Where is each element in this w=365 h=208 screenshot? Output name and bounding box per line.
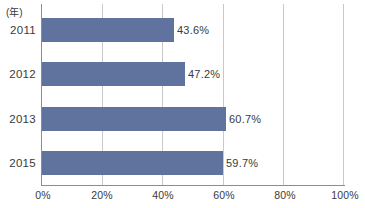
x-axis-tick-label-100: 100%	[331, 189, 359, 201]
y-axis-tick-label-2013: 2013	[9, 113, 36, 125]
y-axis-tick-label-2011: 2011	[10, 24, 36, 36]
data-label-2013: 60.7%	[229, 113, 261, 125]
gridline-100	[343, 4, 344, 185]
gridline-80	[283, 4, 284, 185]
x-axis-tick-label-0: 0%	[35, 189, 51, 201]
data-label-2012: 47.2%	[188, 68, 220, 80]
y-axis-tick-label-2012: 2012	[9, 68, 36, 80]
bar-2011	[42, 18, 174, 42]
horizontal-bar-chart: (年) 2011 2012 2013 2015 43.6% 47.2% 60.7…	[0, 0, 365, 208]
data-label-2015: 59.7%	[226, 157, 258, 169]
x-axis-tick-label-80: 80%	[274, 189, 296, 201]
x-axis-tick-label-60: 60%	[213, 189, 235, 201]
data-label-2011: 43.6%	[177, 24, 209, 36]
bar-2013	[42, 107, 226, 131]
gridline-60	[223, 4, 224, 185]
x-axis-tick-label-20: 20%	[91, 189, 113, 201]
x-axis-tick-label-40: 40%	[152, 189, 174, 201]
x-axis-line	[41, 185, 345, 186]
y-axis-unit-label: (年)	[6, 4, 23, 19]
bar-2015	[42, 151, 223, 175]
y-axis-tick-label-2015: 2015	[9, 157, 36, 169]
bar-2012	[42, 62, 185, 86]
